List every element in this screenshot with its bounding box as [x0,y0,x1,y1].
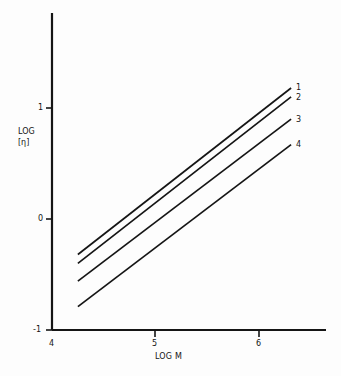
x-tick-label-5: 5 [152,339,157,348]
curve-label-4: 4 [296,140,301,149]
x-tick-label-6: 6 [256,339,261,348]
x-tick-label-4: 4 [49,339,54,348]
data-line-3 [78,119,291,281]
data-line-4 [78,145,291,307]
curve-label-3: 3 [296,115,301,124]
data-line-2 [78,97,291,264]
y-tick-label-0: 0 [38,214,43,223]
chart-figure: 1 0 -1 4 5 6 LOG [η] LOG M 1 2 3 4 [0,0,341,376]
data-line-1 [78,88,291,255]
y-axis-title: LOG [η] [18,126,52,148]
curve-label-2: 2 [296,93,301,102]
y-tick-label-neg1: -1 [33,325,41,334]
y-tick-label-1: 1 [38,103,43,112]
x-axis-title: LOG M [155,352,182,361]
y-axis-title-line1: LOG [18,126,52,137]
curve-label-1: 1 [296,83,301,92]
plot-canvas [0,0,341,376]
y-axis-title-line2: [η] [18,137,52,148]
